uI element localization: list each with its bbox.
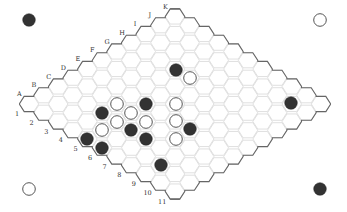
white-stone — [125, 107, 138, 120]
hex-board[interactable]: ABCDEFGHIJK1234567891011 — [0, 0, 347, 212]
letter-label-H: H — [119, 29, 125, 37]
black-stone — [96, 107, 109, 120]
letter-label-B: B — [32, 81, 37, 89]
corner-white-stone-bottom-left — [23, 183, 36, 196]
white-stone — [170, 115, 183, 128]
black-stone — [125, 124, 138, 137]
black-stone — [81, 133, 94, 146]
number-label-10: 10 — [143, 189, 151, 197]
number-label-5: 5 — [73, 145, 77, 153]
number-label-2: 2 — [30, 119, 34, 127]
number-label-8: 8 — [117, 171, 121, 179]
letter-label-I: I — [134, 20, 137, 28]
black-stone — [184, 123, 197, 136]
corner-white-stone-top-right — [314, 14, 327, 27]
white-stone — [111, 116, 124, 129]
white-stone — [140, 116, 153, 129]
black-stone — [140, 133, 153, 146]
white-stone — [96, 124, 109, 137]
letter-label-C: C — [46, 73, 51, 81]
letter-label-F: F — [90, 46, 95, 54]
number-label-1: 1 — [15, 110, 19, 118]
corner-black-stone-bottom-right — [314, 183, 327, 196]
number-label-7: 7 — [103, 163, 107, 171]
corner-black-stone-top-left — [23, 14, 36, 27]
black-stone — [155, 159, 168, 172]
black-stone — [285, 97, 298, 110]
white-stone — [170, 98, 183, 111]
number-label-11: 11 — [158, 198, 166, 206]
letter-label-E: E — [75, 55, 80, 63]
white-stone — [170, 133, 183, 146]
letter-label-A: A — [16, 90, 22, 98]
black-stone — [140, 98, 153, 111]
letter-label-J: J — [147, 11, 151, 19]
number-label-3: 3 — [44, 128, 48, 136]
white-stone — [184, 72, 197, 85]
letter-label-D: D — [61, 64, 66, 72]
white-stone — [111, 98, 124, 111]
letter-label-K: K — [163, 3, 168, 11]
number-label-6: 6 — [88, 154, 92, 162]
black-stone — [96, 142, 109, 155]
number-label-9: 9 — [132, 180, 136, 188]
number-label-4: 4 — [59, 136, 63, 144]
black-stone — [170, 64, 183, 77]
letter-label-G: G — [105, 38, 110, 46]
